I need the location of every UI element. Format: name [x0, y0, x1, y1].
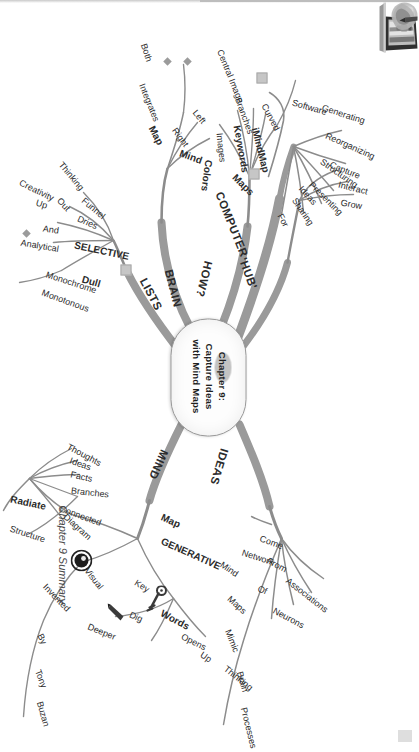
mindmap-canvas: Chapter 9: Capture Ideas with Mind Maps [0, 0, 419, 752]
node-and[interactable]: And [42, 224, 59, 235]
marker-square-lists [120, 264, 131, 275]
figure-caption: Chapter 9 Summary [56, 505, 67, 603]
central-line-3: with Mind Maps [191, 339, 202, 413]
central-line-1: Chapter 9: [217, 351, 228, 400]
central-node-text: Chapter 9: Capture Ideas with Mind Maps [172, 318, 246, 434]
central-line-2: Capture Ideas [204, 343, 215, 409]
color-splash-icon [391, 0, 419, 34]
mindmap-page: Chapter 9: Capture Ideas with Mind Maps [0, 0, 419, 752]
marker-square-central-image [256, 72, 267, 83]
rotated-page-wrapper: Chapter 9: Capture Ideas with Mind Maps [0, 0, 419, 752]
pencil-icon [107, 602, 127, 624]
